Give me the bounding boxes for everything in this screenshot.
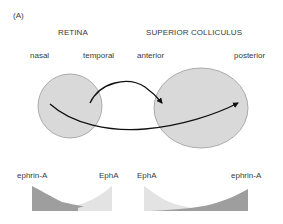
colliculus-title: SUPERIOR COLLICULUS [146, 28, 242, 37]
retina-nasal-label: nasal [30, 51, 49, 60]
retina-temporal-label: temporal [83, 51, 114, 60]
retina-epha-label: EphA [99, 171, 119, 180]
retina-gradient [32, 186, 112, 211]
colliculus-anterior-label: anterior [137, 51, 164, 60]
colliculus-gradient [144, 186, 248, 211]
colliculus-posterior-label: posterior [234, 51, 265, 60]
retina-title: RETINA [58, 28, 88, 37]
retina-ephrin-label: ephrin-A [17, 171, 47, 180]
colliculus-epha-label: EphA [137, 171, 157, 180]
colliculus-ellipse [154, 68, 248, 148]
retina-circle [38, 74, 102, 138]
panel-label: (A) [13, 11, 24, 20]
colliculus-ephrin-label: ephrin-A [231, 171, 261, 180]
